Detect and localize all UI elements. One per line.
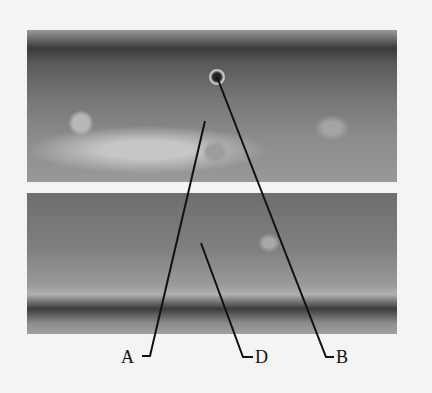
label-b: B — [336, 348, 348, 366]
label-d: D — [255, 348, 268, 366]
leader-line-d — [201, 243, 253, 357]
leader-lines — [0, 0, 432, 393]
label-a: A — [121, 348, 134, 366]
leader-line-b — [217, 77, 334, 357]
leader-line-a — [142, 121, 205, 356]
